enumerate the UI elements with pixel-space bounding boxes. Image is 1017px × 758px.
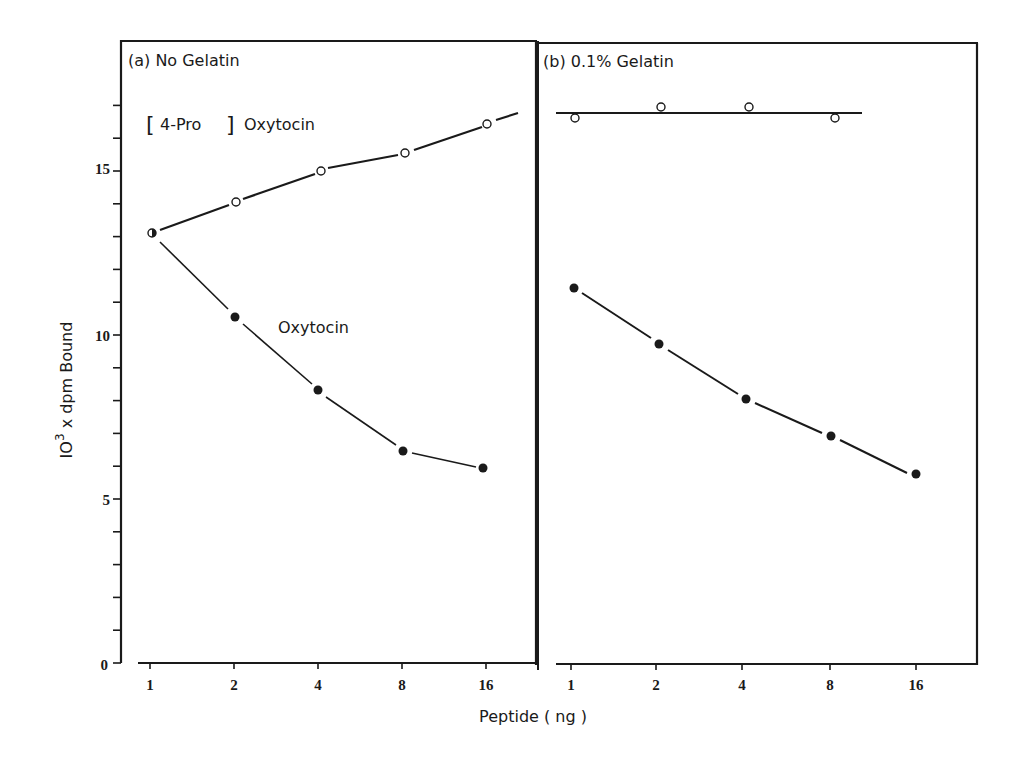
- y-axis-ticks: [113, 105, 121, 663]
- y-tick-15: 15: [95, 161, 110, 177]
- x-tick-8: 8: [398, 677, 406, 693]
- series-a-pro-oxytocin-line: [160, 113, 518, 230]
- series-a-oxytocin-line: [160, 242, 476, 467]
- x-tick-2: 2: [230, 677, 238, 693]
- panel-a-title: (a) No Gelatin: [128, 51, 240, 70]
- y-axis-label: IO3 x dpm Bound: [53, 322, 76, 459]
- panel-b: [538, 41, 978, 670]
- shared-point-marker: [148, 229, 156, 237]
- panel-b-title: (b) 0.1% Gelatin: [543, 52, 674, 71]
- chart-figure: 0 5 10 15 1 2 4 8 16 1 2 4 8 16 Peptide …: [0, 0, 1017, 758]
- series-b-oxytocin-markers: [570, 284, 921, 479]
- svg-text:[: [: [146, 112, 155, 137]
- x-axis-labels-b: 1 2 4 8 16: [567, 677, 924, 693]
- x-tick-4: 4: [314, 677, 322, 693]
- x-tick-16-b: 16: [909, 677, 925, 693]
- x-tick-1-b: 1: [567, 677, 575, 693]
- svg-text:Oxytocin: Oxytocin: [244, 115, 315, 134]
- y-tick-0: 0: [101, 657, 109, 673]
- x-tick-1: 1: [146, 677, 154, 693]
- x-tick-4-b: 4: [738, 677, 746, 693]
- y-axis-labels: 0 5 10 15: [95, 161, 110, 673]
- x-tick-8-b: 8: [826, 677, 834, 693]
- x-tick-16: 16: [479, 677, 495, 693]
- svg-text:IO3 x dpm Bound: IO3 x dpm Bound: [53, 322, 76, 459]
- x-axis-label: Peptide ( ng ): [479, 707, 587, 726]
- annotation-oxytocin: Oxytocin: [278, 318, 349, 337]
- y-tick-5: 5: [103, 492, 111, 508]
- y-tick-10: 10: [95, 328, 110, 344]
- series-a-oxytocin-markers: [231, 313, 488, 473]
- svg-text:4-Pro: 4-Pro: [160, 115, 201, 134]
- x-axis-labels-a: 1 2 4 8 16: [146, 677, 494, 693]
- annotation-4-pro-oxytocin: [ 4-Pro ] Oxytocin: [146, 112, 315, 137]
- svg-text:]: ]: [226, 112, 235, 137]
- x-tick-2-b: 2: [652, 677, 660, 693]
- series-b-oxytocin-line: [582, 293, 907, 473]
